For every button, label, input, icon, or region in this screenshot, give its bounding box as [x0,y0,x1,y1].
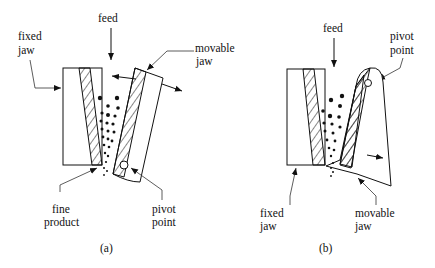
movable-jaw-a [113,68,163,182]
panel-a: feed fixed jaw movable jaw [17,12,235,255]
fixed-jaw-label-a-1: fixed [18,30,42,42]
movable-jaw-label-a-1: movable [195,42,235,54]
fixed-jaw-b [287,69,325,165]
fixed-jaw-label-b-2: jaw [259,220,277,233]
movable-jaw-label-b-2: jaw [354,220,372,233]
movable-jaw-label-a-2: jaw [195,55,213,68]
movable-jaw-leader-b [358,178,376,205]
jaw-crusher-diagram: feed fixed jaw movable jaw [0,0,435,268]
panel-b: feed pivot point [259,22,414,255]
motion-arrow-out-a [162,84,182,91]
pivot-circle-b [365,80,372,87]
fixed-jaw-a [63,68,102,165]
feed-label-b: feed [323,22,343,34]
motion-arrow-in-a [112,76,136,79]
pivot-point-label-a-1: pivot [152,203,176,216]
fixed-jaw-label-a-2: jaw [17,44,35,57]
pivot-point-label-b-2: point [390,44,414,57]
fixed-jaw-leader-b [290,168,296,205]
fixed-jaw-label-b-1: fixed [260,207,284,219]
movable-jaw-label-b-1: movable [355,207,395,219]
caption-b: (b) [319,242,333,255]
fine-product-label-a-1: fine [52,203,70,215]
pivot-point-label-a-2: point [152,216,176,229]
pivot-circle-a [120,161,128,169]
movable-jaw-leader-a [147,51,194,70]
fine-product-label-a-2: product [44,216,80,229]
pivot-point-label-b-1: pivot [390,30,414,43]
fine-product-leader-a [60,168,97,192]
caption-a: (a) [100,242,113,255]
movable-jaw-b [326,68,391,186]
feed-label-a: feed [98,12,118,24]
fixed-jaw-leader-a [30,60,61,88]
